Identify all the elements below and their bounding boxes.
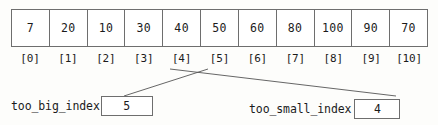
array-cell: 80 [277, 10, 315, 46]
array-cell-value: 7 [27, 21, 34, 35]
array-cell-value: 20 [61, 21, 76, 35]
too-big-index-value: 5 [123, 99, 130, 113]
array-cell-value: 70 [401, 21, 416, 35]
array-cell-value: 50 [212, 21, 227, 35]
array-cell: 70 [390, 10, 427, 46]
connector-line-to-too-small-index [170, 69, 396, 96]
array-cell-value: 80 [288, 21, 303, 35]
array-cell: 30 [125, 10, 163, 46]
array-index-label: [2] [87, 52, 125, 69]
array-index-label: [5] [201, 52, 239, 69]
array-cell-value: 40 [174, 21, 189, 35]
array-cell-value: 30 [137, 21, 152, 35]
array-cell-value: 10 [99, 21, 114, 35]
array-index-label: [6] [238, 52, 276, 69]
array-index-label: [1] [49, 52, 87, 69]
too-big-index-value-box: 5 [101, 96, 153, 116]
too-big-index-pointer: too_big_index 5 [11, 96, 153, 116]
array-cell: 90 [352, 10, 390, 46]
array-cell: 50 [201, 10, 239, 46]
array-row: 7 20 10 30 40 50 60 80 100 90 70 [11, 9, 428, 47]
too-small-index-label: too_small_index [249, 102, 351, 116]
array-cell: 60 [239, 10, 277, 46]
too-big-index-label: too_big_index [11, 99, 100, 113]
array-index-label: [10] [390, 52, 428, 69]
array-cell: 100 [315, 10, 353, 46]
connector-line-to-too-big-index [124, 69, 208, 96]
array-cell: 7 [12, 10, 50, 46]
array-index-label: [9] [352, 52, 390, 69]
array-index-label: [3] [125, 52, 163, 69]
array-cell-value: 90 [363, 21, 378, 35]
too-small-index-pointer: too_small_index 4 [249, 99, 400, 119]
array-cell: 20 [50, 10, 88, 46]
array-index-label: [0] [11, 52, 49, 69]
array-cell-value: 60 [250, 21, 265, 35]
array-cell: 40 [163, 10, 201, 46]
array-cell-value: 100 [322, 21, 344, 35]
array-index-label: [7] [276, 52, 314, 69]
too-small-index-value-box: 4 [354, 99, 400, 119]
array-index-pointer-diagram: 7 20 10 30 40 50 60 80 100 90 70 [0] [1]… [0, 0, 438, 125]
too-small-index-value: 4 [374, 102, 381, 116]
array-index-label: [4] [163, 52, 201, 69]
array-index-label: [8] [314, 52, 352, 69]
array-index-row: [0] [1] [2] [3] [4] [5] [6] [7] [8] [9] … [11, 52, 428, 69]
array-cell: 10 [88, 10, 126, 46]
